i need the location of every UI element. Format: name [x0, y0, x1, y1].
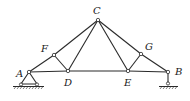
- joint-b: [166, 70, 169, 73]
- label-g: G: [145, 41, 153, 52]
- member-fd: [54, 55, 68, 71]
- joint-f: [52, 53, 55, 56]
- joint-c: [96, 18, 99, 21]
- label-e: E: [123, 77, 132, 88]
- label-c: C: [93, 5, 101, 16]
- member-af: [29, 55, 54, 72]
- label-b: B: [174, 66, 182, 77]
- joint-a: [27, 70, 30, 73]
- label-f: F: [40, 43, 49, 54]
- joint-g: [139, 52, 142, 55]
- member-ad: [29, 71, 68, 72]
- truss-diagram: ABCDEFG: [0, 0, 190, 101]
- member-dc: [68, 20, 98, 71]
- joint-d: [66, 69, 69, 72]
- member-eb: [128, 71, 168, 72]
- joint-e: [126, 69, 129, 72]
- joint-labels: ABCDEFG: [15, 5, 182, 88]
- member-cg: [98, 20, 141, 54]
- label-a: A: [15, 68, 23, 79]
- member-eg: [128, 54, 141, 71]
- member-gb: [141, 54, 168, 72]
- label-d: D: [63, 77, 72, 88]
- member-fc: [54, 20, 98, 55]
- member-ce: [98, 20, 128, 71]
- truss-canvas: ABCDEFG: [0, 0, 190, 101]
